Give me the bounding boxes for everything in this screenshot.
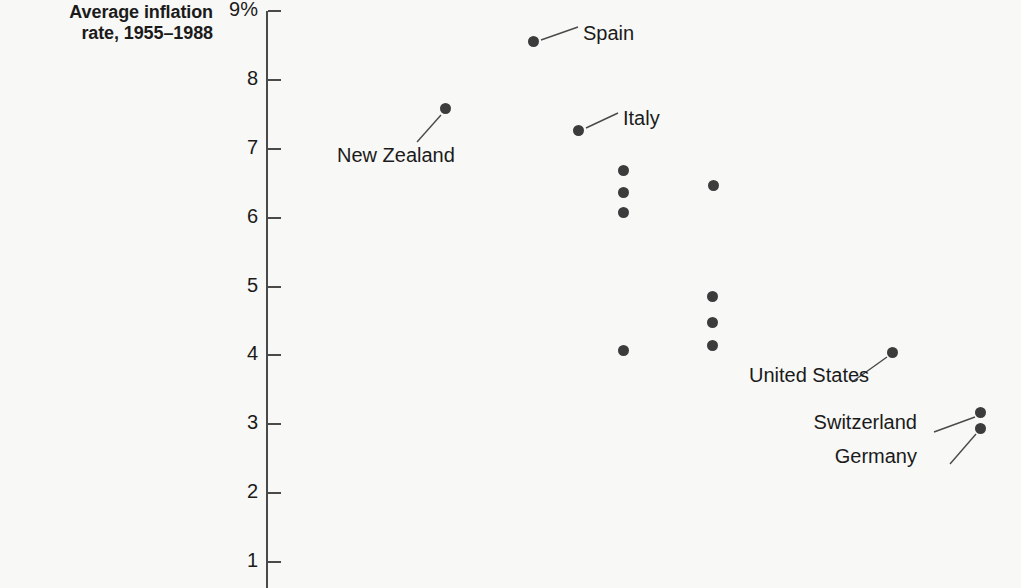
data-point[interactable] <box>707 291 718 302</box>
data-point[interactable] <box>708 180 719 191</box>
leader-line-spain <box>541 27 578 40</box>
leader-line-new-zealand <box>417 115 441 142</box>
data-point-germany[interactable] <box>975 423 986 434</box>
data-point[interactable] <box>618 345 629 356</box>
point-label-united-states: United States <box>749 364 869 387</box>
chart-page: Average inflation rate, 1955–1988 9%8765… <box>0 0 1021 588</box>
point-label-switzerland: Switzerland <box>700 411 917 434</box>
point-label-italy: Italy <box>623 107 660 130</box>
data-point[interactable] <box>618 165 629 176</box>
plot-area: SpainNew ZealandItalyUnited StatesSwitze… <box>0 0 1021 588</box>
data-point-switzerland[interactable] <box>975 407 986 418</box>
leader-lines <box>0 0 1021 588</box>
point-label-spain: Spain <box>583 22 634 45</box>
point-label-new-zealand: New Zealand <box>337 144 455 167</box>
data-point-italy[interactable] <box>573 125 584 136</box>
data-point-spain[interactable] <box>528 36 539 47</box>
point-label-germany: Germany <box>700 445 917 468</box>
data-point-new-zealand[interactable] <box>440 103 451 114</box>
data-point[interactable] <box>618 187 629 198</box>
leader-line-italy <box>586 113 618 128</box>
data-point[interactable] <box>707 340 718 351</box>
data-point[interactable] <box>618 207 629 218</box>
data-point-united-states[interactable] <box>887 347 898 358</box>
leader-line-germany <box>950 434 976 464</box>
leader-line-switzerland <box>934 417 975 432</box>
data-point[interactable] <box>707 317 718 328</box>
